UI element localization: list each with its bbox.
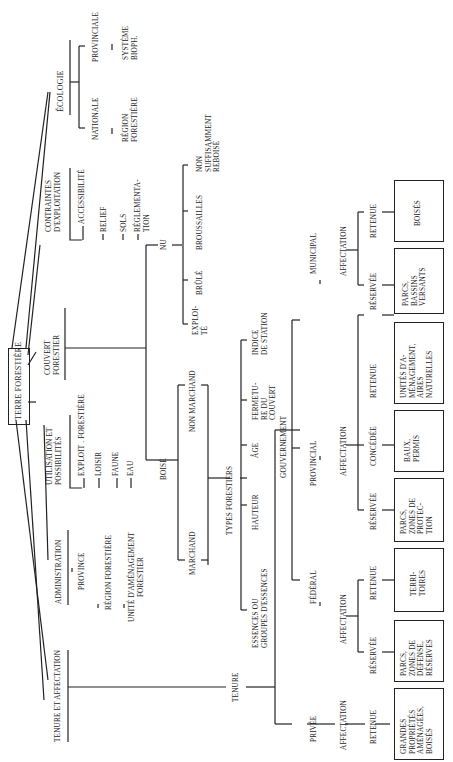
privee-affectation: AFFECTATION — [340, 700, 349, 750]
administration-region-forestiere: RÉGION FORESTIÈRE — [105, 535, 114, 610]
contraintes-reglementation: RÉGLEMENTA- TION — [134, 179, 151, 232]
municipal-reservee-box-text: PARCS, BASSINS VERSANTS — [402, 267, 428, 306]
provincial-retenue: RETENUE — [370, 364, 379, 398]
utilisation-label: UTILISATION ET POSSIBILITÉS — [46, 427, 63, 485]
provincial-reservee-box-text: PARCS, ZONES DE PROTEC- TION — [400, 498, 434, 534]
gouvernement-label: GOUVERNEMENT — [280, 416, 289, 478]
administration-unite-amenagement: UNITÉ D'AMÉNAGEMENT FORESTIER — [128, 532, 145, 622]
nu-broussailles: BROUSSAILLES — [196, 195, 205, 250]
nu-exploite: EXPLOI- TÉ — [192, 306, 209, 335]
provincial-affectation: AFFECTATION — [340, 426, 349, 476]
boise-label: BOISÉ — [160, 458, 169, 480]
types-indice-station: INDICE DE STATION — [252, 312, 269, 355]
contraintes-relief: RELIEF — [100, 206, 109, 232]
federal-reservee: RÉSERVÉE — [370, 637, 379, 674]
ecologie-label: ÉCOLOGIE — [56, 70, 66, 112]
provincial-reservee: RÉSERVÉE — [370, 493, 379, 530]
root-node-label: TERRE FORESTIÈRE — [14, 342, 24, 420]
types-age: ÂGE — [252, 443, 261, 458]
utilisation-eau: EAU — [127, 461, 136, 476]
provincial-concedee-box-text: BAUX, PERMIS — [404, 435, 421, 462]
ecologie-provinciale: PROVINCIALE — [92, 12, 101, 62]
nu-non-suffisamment-reboise: NON SUFFISAMMENT REBOISÉ — [196, 114, 222, 172]
tenure-label: TENURE — [232, 672, 241, 702]
contraintes-accessibilite: ACCESSIBILITÉ — [78, 169, 87, 224]
couvert-forestier-label: COUVERT FORESTIER — [44, 335, 61, 375]
administration-province: PROVINCE — [78, 552, 87, 590]
utilisation-faune: FAUNE — [112, 452, 121, 476]
federal-label: FÉDÉRAL — [310, 570, 319, 604]
federal-retenue: RETENUE — [370, 566, 379, 600]
administration-label: ADMINISTRATION — [55, 540, 64, 604]
nu-label: NU — [160, 239, 169, 250]
municipal-affectation: AFFECTATION — [340, 226, 349, 276]
privee-retenue-box-text: GRANDES PROPRIÉTÉS AMÉNAGÉES, BOISÉS — [400, 706, 434, 754]
municipal-retenue: RETENUE — [370, 204, 379, 238]
federal-retenue-box-text: TERRI- TOIRES — [410, 570, 427, 596]
federal-reservee-box-text: PARCS, ZONES DE DÉFENSE, RÉSERVES — [400, 639, 434, 676]
ecologie-region-forestiere: RÉGION FORESTIÈRE — [122, 97, 139, 142]
types-hauteur: HAUTEUR — [252, 494, 261, 530]
tenure-affectation-label: TENURE ET AFFECTATION — [54, 650, 63, 742]
marchand-label: MARCHAND — [189, 531, 198, 575]
municipal-label: MUNICIPAL — [310, 233, 319, 274]
types-essences: ESSENCES OU GROUPES D'ESSENCES — [252, 568, 269, 648]
diagram-connectors — [0, 0, 453, 762]
types-forestiers-label: TYPES FORESTIERS — [226, 466, 235, 535]
contraintes-label: CONTRAINTES D'EXPLOITATION — [45, 172, 62, 232]
municipal-retenue-box-text: BOISÉS — [414, 200, 423, 226]
contraintes-sols: SOLS — [120, 214, 129, 232]
ecologie-systeme-bioph: SYSTÈME BIOPH. — [122, 26, 139, 60]
types-fermeture-couvert: FERMETU- RE DU COUVERT — [252, 382, 278, 420]
utilisation-loisir: LOISIR — [95, 452, 104, 476]
privee-label: PRIVÉE — [310, 716, 319, 742]
utilisation-exploit-forestiere: EXPLOIT . FORESTIÈRE — [78, 394, 87, 476]
provincial-concedee: CONCÉDÉE — [370, 426, 379, 466]
federal-affectation: AFFECTATION — [340, 594, 349, 644]
nu-brule: BRÛLÉ — [196, 270, 205, 295]
municipal-reservee: RÉSERVÉE — [370, 273, 379, 310]
non-marchand-label: NON MARCHAND — [189, 370, 198, 432]
provincial-label: PROVINCIAL — [310, 440, 319, 486]
provincial-retenue-box-text: UNITÉS D'A- MÉNAGEMENT, AIRES NATURELLES — [400, 343, 434, 398]
ecologie-nationale: NATIONALE — [92, 97, 101, 140]
privee-retenue: RETENUE — [370, 710, 379, 744]
